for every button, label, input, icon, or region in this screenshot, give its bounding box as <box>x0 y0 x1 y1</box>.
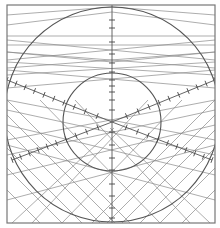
projection-net-diagram <box>0 0 220 228</box>
